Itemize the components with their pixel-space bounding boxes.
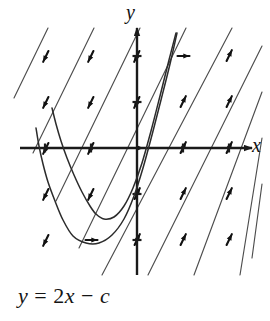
- caption-coefficient: 2: [53, 283, 65, 308]
- x-axis-label: x: [252, 135, 261, 155]
- equation-caption: y = 2x − c: [18, 283, 110, 309]
- caption-constant: c: [100, 283, 110, 308]
- slope-field-figure: y x y = 2x − c: [0, 0, 270, 321]
- caption-minus: −: [75, 283, 100, 308]
- slope-field-plot: [0, 0, 270, 321]
- coordinate-axes: [20, 28, 252, 275]
- y-axis-label: y: [126, 2, 135, 22]
- caption-lhs: y: [18, 283, 28, 308]
- caption-equals: =: [28, 283, 53, 308]
- solution-curves: [36, 33, 177, 244]
- caption-variable: x: [65, 283, 75, 308]
